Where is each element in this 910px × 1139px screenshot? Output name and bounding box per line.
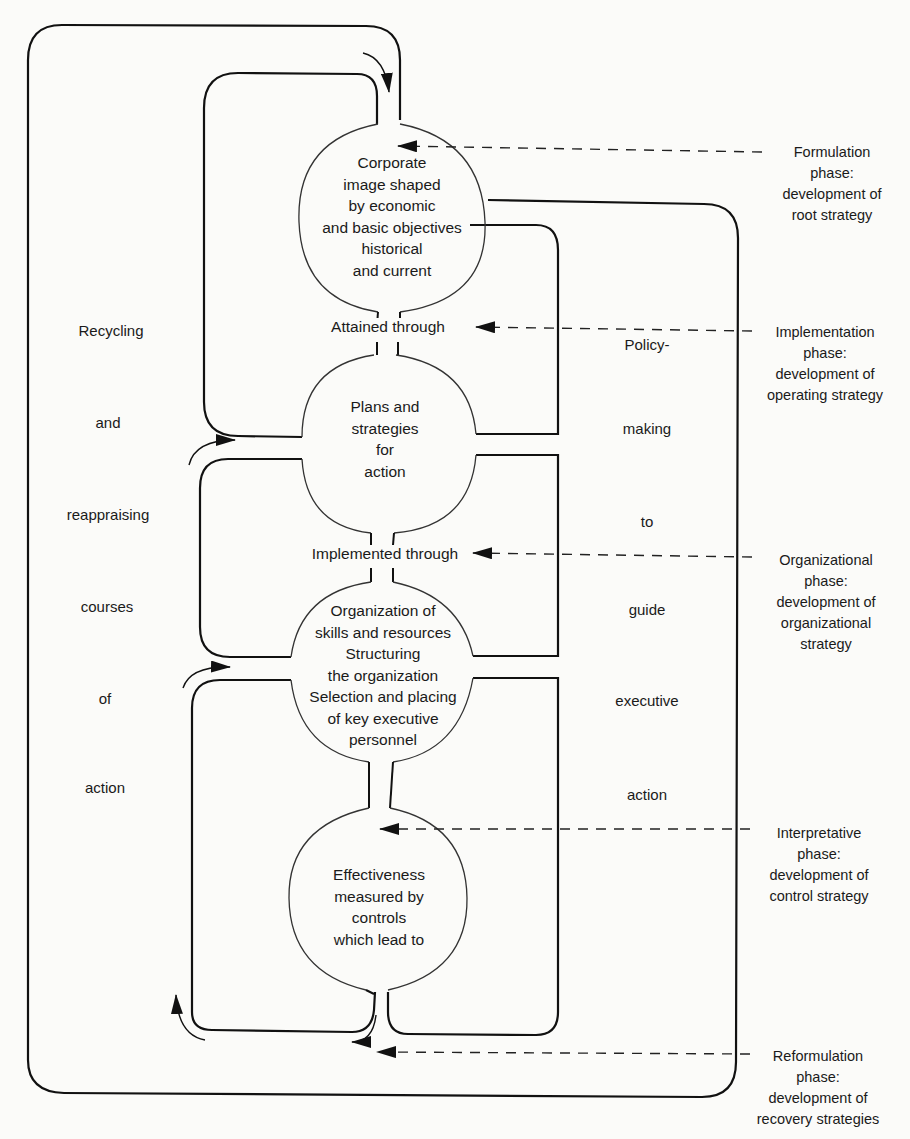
node-line: and current bbox=[322, 260, 462, 282]
right-label-policy: Policy- bbox=[624, 336, 669, 353]
node-line: Selection and placing bbox=[309, 686, 456, 708]
node-line: strategies bbox=[351, 418, 420, 440]
left-label-of: of bbox=[99, 690, 112, 707]
node-line: Organization of bbox=[309, 600, 456, 622]
node-line: and basic objectives bbox=[322, 217, 462, 239]
left-label-courses: courses bbox=[81, 598, 134, 615]
phase-line: operating strategy bbox=[767, 385, 883, 406]
node-line: personnel bbox=[309, 729, 456, 751]
phase-line: Organizational bbox=[776, 550, 875, 571]
phase-implementation: Implementation phase: development of ope… bbox=[767, 322, 883, 406]
left-label-action: action bbox=[85, 779, 125, 796]
phase-interpretative: Interpretative phase: development of con… bbox=[769, 823, 868, 907]
connector-implemented-through: Implemented through bbox=[312, 545, 458, 563]
node-line: controls bbox=[333, 907, 425, 929]
node-line: image shaped bbox=[322, 174, 462, 196]
node-effectiveness: Effectiveness measured by controls which… bbox=[333, 864, 425, 950]
phase-line: development of bbox=[767, 364, 883, 385]
phase-line: development of bbox=[782, 184, 881, 205]
node-line: measured by bbox=[333, 886, 425, 908]
flow-arrow-circle3 bbox=[183, 667, 230, 688]
phase-line: phase: bbox=[782, 163, 881, 184]
connector-attained-through: Attained through bbox=[331, 318, 445, 336]
left-label-and: and bbox=[95, 414, 120, 431]
inner-loop-2 bbox=[200, 459, 302, 657]
node-line: historical bbox=[322, 238, 462, 260]
phase-line: Interpretative bbox=[769, 823, 868, 844]
node-line: Structuring bbox=[309, 643, 456, 665]
node-line: by economic bbox=[322, 195, 462, 217]
node-line: the organization bbox=[309, 665, 456, 687]
phase-line: phase: bbox=[776, 571, 875, 592]
phase-line: phase: bbox=[769, 844, 868, 865]
phase-line: recovery strategies bbox=[757, 1109, 880, 1130]
node-line: Plans and bbox=[351, 396, 420, 418]
phase-line: development of bbox=[757, 1088, 880, 1109]
node-line: which lead to bbox=[333, 929, 425, 951]
node-line: action bbox=[351, 461, 420, 483]
phase-line: organizational bbox=[776, 613, 875, 634]
phase-line: development of bbox=[776, 592, 875, 613]
phase-organizational: Organizational phase: development of org… bbox=[776, 550, 875, 655]
right-label-making: making bbox=[623, 420, 671, 437]
right-label-to: to bbox=[641, 513, 654, 530]
flow-arrow-bottom-left bbox=[176, 995, 205, 1040]
phase-line: root strategy bbox=[782, 205, 881, 226]
phase-line: control strategy bbox=[769, 886, 868, 907]
phase-line: Reformulation bbox=[757, 1046, 880, 1067]
phase-line: Implementation bbox=[767, 322, 883, 343]
node-line: of key executive bbox=[309, 708, 456, 730]
phase-reformulation: Reformulation phase: development of reco… bbox=[757, 1046, 880, 1130]
phase-line: strategy bbox=[776, 634, 875, 655]
phase-line: Formulation bbox=[782, 142, 881, 163]
right-label-action: action bbox=[627, 786, 667, 803]
phase-formulation: Formulation phase: development of root s… bbox=[782, 142, 881, 226]
phase-line: phase: bbox=[757, 1067, 880, 1088]
node-organization: Organization of skills and resources Str… bbox=[309, 600, 456, 751]
node-corporate-image: Corporate image shaped by economic and b… bbox=[322, 152, 462, 281]
node-plans-strategies: Plans and strategies for action bbox=[351, 396, 420, 482]
right-label-executive: executive bbox=[615, 692, 678, 709]
phase-line: phase: bbox=[767, 343, 883, 364]
left-label-reappraising: reappraising bbox=[67, 506, 150, 523]
node-line: skills and resources bbox=[309, 622, 456, 644]
left-label-recycling: Recycling bbox=[78, 322, 143, 339]
node-line: for bbox=[351, 439, 420, 461]
phase-line: development of bbox=[769, 865, 868, 886]
right-label-guide: guide bbox=[629, 601, 666, 618]
node-line: Corporate bbox=[322, 152, 462, 174]
node-line: Effectiveness bbox=[333, 864, 425, 886]
